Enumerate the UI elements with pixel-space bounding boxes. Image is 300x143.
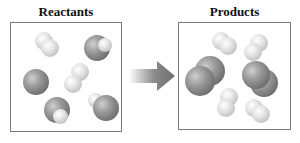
hydrogen-atom (53, 109, 68, 124)
oxygen-atom (242, 61, 270, 89)
oxygen-atom (23, 69, 49, 95)
products-box (178, 22, 291, 130)
hydrogen-atom (217, 99, 235, 117)
products-title: Products (178, 4, 291, 20)
oxygen-atom (185, 66, 215, 96)
hydrogen-atom (64, 75, 82, 93)
reactants-box (10, 22, 122, 132)
hydrogen-atom (252, 105, 270, 123)
reaction-arrow-icon (129, 61, 175, 91)
hydrogen-atom (244, 43, 262, 61)
hydrogen-atom (98, 38, 112, 52)
reactants-title: Reactants (10, 4, 122, 20)
hydrogen-atom (219, 37, 237, 55)
hydrogen-atom (41, 39, 59, 57)
oxygen-atom (93, 95, 119, 121)
